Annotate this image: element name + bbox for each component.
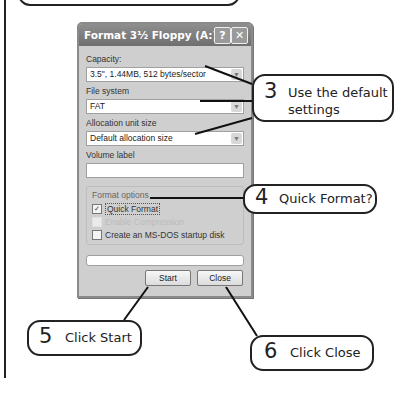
callout-5-text: Click Start bbox=[65, 330, 132, 345]
callout-6-number: 6 bbox=[264, 339, 277, 363]
callout-4-number: 4 bbox=[255, 185, 268, 209]
callout-6: 6 Click Close bbox=[250, 335, 374, 371]
callout-5-number: 5 bbox=[39, 324, 52, 348]
callout-4: 4 Quick Format? bbox=[243, 184, 377, 214]
callout-6-text: Click Close bbox=[290, 345, 361, 360]
callout-3-line1: Use the default bbox=[288, 85, 388, 100]
callout-3: 3 Use the default settings bbox=[252, 74, 394, 122]
callout-3-number: 3 bbox=[264, 79, 277, 103]
callout-3-line2: settings bbox=[288, 102, 340, 117]
callout-4-text: Quick Format? bbox=[279, 191, 373, 206]
callout-5: 5 Click Start bbox=[27, 320, 142, 356]
